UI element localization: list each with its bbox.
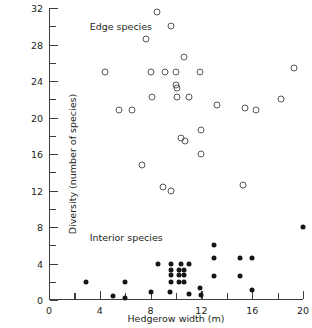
data-point-edge-species (180, 54, 187, 61)
data-point-edge-species (278, 96, 285, 103)
x-axis-title: Hedgerow width (m) (49, 313, 303, 324)
y-tick-minor (50, 245, 56, 246)
data-point-interior-species (198, 286, 203, 291)
data-point-interior-species (181, 267, 186, 272)
data-point-interior-species (179, 261, 184, 266)
data-point-interior-species (168, 273, 173, 278)
y-tick-label: 28 (23, 39, 43, 50)
y-tick-major (50, 300, 58, 301)
y-tick-minor (50, 99, 56, 100)
y-tick-minor (50, 209, 56, 210)
data-point-interior-species (181, 279, 186, 284)
x-tick-label: 20 (297, 305, 309, 316)
x-tick-minor (278, 293, 279, 299)
x-tick-label: 12 (195, 305, 207, 316)
data-point-edge-species (128, 107, 135, 114)
data-point-edge-species (240, 182, 247, 189)
y-tick-label: 12 (23, 185, 43, 196)
y-tick-major (50, 45, 58, 46)
data-point-interior-species (123, 279, 128, 284)
x-tick-major (100, 291, 101, 299)
data-point-interior-species (168, 261, 173, 266)
plot-area: 048121620242832 048121620 Edge speciesIn… (49, 8, 303, 300)
y-tick-label: 24 (23, 76, 43, 87)
data-point-edge-species (198, 151, 205, 158)
data-point-interior-species (110, 294, 115, 299)
y-tick-minor (50, 282, 56, 283)
scatter-plot-figure: Diversity (number of species) Hedgerow w… (0, 0, 312, 328)
data-point-interior-species (237, 274, 242, 279)
data-point-edge-species (291, 65, 298, 72)
y-tick-major (50, 118, 58, 119)
x-tick-minor (227, 293, 228, 299)
y-tick-minor (50, 63, 56, 64)
data-point-interior-species (212, 274, 217, 279)
data-point-interior-species (212, 256, 217, 261)
x-tick-label: 8 (148, 305, 154, 316)
data-point-edge-species (161, 68, 168, 75)
data-point-edge-species (213, 101, 220, 108)
data-point-interior-species (83, 279, 88, 284)
data-point-edge-species (138, 161, 145, 168)
data-point-edge-species (167, 23, 174, 30)
data-point-edge-species (253, 107, 260, 114)
data-point-edge-species (197, 68, 204, 75)
x-tick-major (303, 291, 304, 299)
y-tick-major (50, 8, 58, 9)
y-tick-label: 0 (23, 295, 43, 306)
data-point-interior-species (301, 225, 306, 230)
data-point-interior-species (167, 289, 172, 294)
data-point-edge-species (153, 8, 160, 15)
y-tick-major (50, 264, 58, 265)
data-point-edge-species (185, 94, 192, 101)
data-point-interior-species (237, 256, 242, 261)
y-tick-major (50, 191, 58, 192)
data-point-edge-species (101, 68, 108, 75)
data-point-edge-species (241, 105, 248, 112)
data-point-interior-species (168, 279, 173, 284)
data-point-interior-species (250, 287, 255, 292)
x-tick-label: 4 (97, 305, 103, 316)
x-tick-label: 16 (246, 305, 258, 316)
data-point-interior-species (168, 267, 173, 272)
plot-annotation-interior-species: Interior species (90, 232, 163, 243)
data-point-edge-species (148, 94, 155, 101)
data-point-edge-species (142, 36, 149, 43)
x-tick-minor (74, 293, 75, 299)
data-point-interior-species (148, 289, 153, 294)
y-tick-label: 4 (23, 258, 43, 269)
data-point-edge-species (147, 68, 154, 75)
data-point-interior-species (212, 243, 217, 248)
y-tick-major (50, 81, 58, 82)
y-tick-label: 16 (23, 149, 43, 160)
data-point-edge-species (173, 68, 180, 75)
data-point-edge-species (174, 85, 181, 92)
y-tick-major (50, 227, 58, 228)
data-point-interior-species (186, 261, 191, 266)
y-tick-major (50, 154, 58, 155)
data-point-edge-species (181, 138, 188, 145)
data-point-edge-species (167, 187, 174, 194)
y-tick-label: 20 (23, 112, 43, 123)
y-tick-label: 8 (23, 222, 43, 233)
x-tick-major (49, 291, 50, 299)
y-tick-minor (50, 26, 56, 27)
data-point-interior-species (156, 261, 161, 266)
data-point-interior-species (123, 296, 128, 301)
data-point-interior-species (199, 292, 204, 297)
data-point-edge-species (174, 94, 181, 101)
x-tick-label: 0 (46, 305, 52, 316)
data-point-interior-species (250, 256, 255, 261)
data-point-edge-species (115, 107, 122, 114)
data-point-edge-species (198, 127, 205, 134)
data-point-edge-species (160, 183, 167, 190)
y-tick-minor (50, 136, 56, 137)
y-tick-label: 32 (23, 3, 43, 14)
data-point-interior-species (181, 273, 186, 278)
data-point-interior-species (186, 291, 191, 296)
plot-annotation-edge-species: Edge species (90, 21, 152, 32)
x-tick-minor (176, 293, 177, 299)
y-tick-minor (50, 172, 56, 173)
